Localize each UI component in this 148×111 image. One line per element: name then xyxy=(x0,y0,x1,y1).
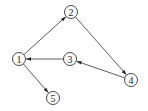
node-2: 2 xyxy=(65,6,78,19)
node-label: 1 xyxy=(17,54,22,65)
edge-1-to-5 xyxy=(23,64,48,93)
node-4: 4 xyxy=(125,74,138,87)
edge-4-to-3 xyxy=(77,61,125,78)
node-label: 5 xyxy=(51,93,56,104)
node-label: 3 xyxy=(68,54,73,65)
nodes-group: 12345 xyxy=(13,6,138,105)
node-label: 4 xyxy=(129,75,134,86)
node-3: 3 xyxy=(64,53,77,66)
directed-graph: 12345 xyxy=(0,0,148,111)
node-5: 5 xyxy=(47,92,60,105)
edge-2-to-4 xyxy=(75,17,126,75)
node-label: 2 xyxy=(69,7,74,18)
node-1: 1 xyxy=(13,53,26,66)
edge-1-to-2 xyxy=(24,17,66,55)
